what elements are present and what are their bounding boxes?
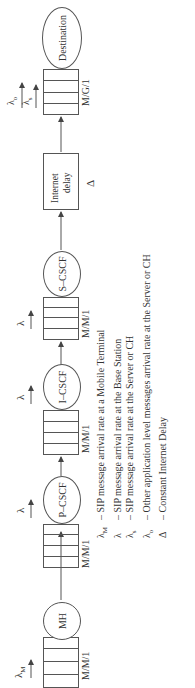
scscf-node: S–CSCF [43, 251, 81, 297]
lambda-m-label: λM [12, 666, 27, 678]
pcscf-node: P–CSCF [43, 476, 81, 524]
lambda-s-label: λs [20, 97, 34, 105]
internet-delay-box: Internet delay [43, 153, 79, 210]
scscf-label: S–CSCF [57, 256, 68, 291]
destination-node: Destination [42, 7, 82, 69]
lambda-label: λ [14, 508, 26, 513]
internet-delay-line2: delay [61, 160, 73, 203]
legend-item: λ– SIP message arrival rate at the Base … [112, 254, 125, 538]
destination-label: Destination [57, 15, 68, 61]
lambda-label: λ [14, 321, 26, 326]
destination-queue [43, 69, 79, 115]
icscf-queue [43, 410, 79, 455]
mh-node: MH [43, 602, 81, 640]
lambda-o-label: λo [5, 97, 19, 105]
icscf-label: I–CSCF [57, 371, 68, 404]
queueing-diagram: MH λM M/M/1 P–CSCF λ M/M/1 I–CSCF λ M/M/… [0, 0, 195, 688]
pcscf-queue-model: M/M/1 [80, 540, 91, 568]
legend-item: λM– SIP message arrival rate at a Mobile… [95, 254, 112, 538]
internet-delay-line1: Internet [49, 160, 61, 203]
legend-item: λo– Other application level messages arr… [141, 254, 158, 538]
pcscf-label: P–CSCF [57, 482, 68, 517]
mh-label: MH [57, 613, 68, 629]
legend-item: λs– SIP message arrival rate at the Serv… [124, 254, 141, 538]
mh-queue-model: M/M/1 [80, 652, 91, 680]
mh-queue [43, 637, 79, 688]
legend-item: Δ– Constant Internet Delay [157, 254, 170, 538]
icscf-queue-model: M/M/1 [80, 425, 91, 453]
destination-queue-model: M/G/1 [80, 79, 91, 106]
pcscf-queue [43, 524, 79, 568]
scscf-queue [43, 297, 79, 340]
scscf-queue-model: M/M/1 [80, 310, 91, 338]
icscf-node: I–CSCF [43, 364, 81, 410]
delta-symbol: Δ [84, 180, 96, 187]
lambda-label: λ [14, 395, 26, 400]
legend: λM– SIP message arrival rate at a Mobile… [95, 254, 170, 538]
